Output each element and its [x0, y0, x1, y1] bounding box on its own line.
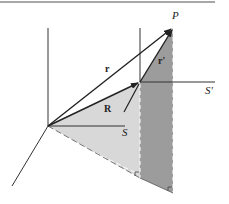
reference-frames-diagram: P r r' R S S': [0, 0, 229, 204]
label-r-prime: r': [158, 55, 165, 66]
label-R: R: [104, 103, 112, 114]
label-S: S: [122, 126, 128, 138]
s-diagonal-axis: [12, 126, 48, 186]
label-r: r: [105, 63, 110, 74]
label-P: P: [171, 9, 179, 21]
dark-plane: [140, 28, 173, 193]
label-S-prime: S': [205, 84, 214, 96]
